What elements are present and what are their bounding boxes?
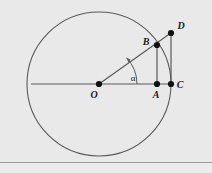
- label-a: A: [152, 89, 160, 100]
- point-b: [154, 42, 160, 48]
- geometry-figure: O A C B D α: [0, 0, 212, 162]
- label-c: C: [177, 79, 184, 90]
- label-b: B: [142, 36, 150, 47]
- figure-panel: O A C B D α: [0, 0, 212, 162]
- point-a: [154, 81, 160, 87]
- label-alpha: α: [131, 73, 136, 83]
- label-d: D: [176, 20, 184, 31]
- point-d: [168, 30, 174, 36]
- label-o: O: [90, 89, 97, 100]
- below-divider-strip: [0, 163, 212, 173]
- point-c: [168, 81, 174, 87]
- point-o: [96, 81, 102, 87]
- screenshot-root: O A C B D α: [0, 0, 212, 173]
